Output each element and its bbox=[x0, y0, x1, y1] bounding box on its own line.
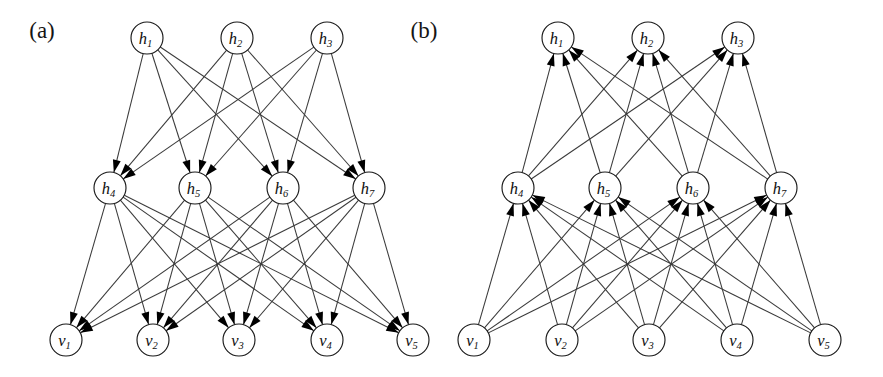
node-subscript-h6: 6 bbox=[693, 188, 699, 199]
edge-h7-to-v3 bbox=[249, 200, 358, 328]
node-subscript-v2: 2 bbox=[153, 340, 159, 351]
edge-v2-to-h4 bbox=[522, 203, 557, 324]
node-panel-a-v4[interactable]: v4 bbox=[311, 324, 343, 356]
edge-h3-to-h4 bbox=[123, 47, 314, 179]
edge-v5-to-h7 bbox=[785, 203, 820, 324]
edge-h2-to-h4 bbox=[120, 50, 226, 176]
edge-h7-to-h3 bbox=[742, 53, 776, 172]
node-panel-b-h7[interactable]: h7 bbox=[765, 172, 797, 204]
arrowhead-v5-to-h7 bbox=[785, 203, 793, 216]
node-subscript-h2: 2 bbox=[237, 38, 243, 49]
node-panel-b-v4[interactable]: v4 bbox=[721, 324, 753, 356]
edge-h7-to-v1 bbox=[80, 195, 354, 333]
node-panel-a-v3[interactable]: v3 bbox=[223, 324, 255, 356]
node-panel-b-v1[interactable]: v1 bbox=[458, 324, 490, 356]
node-panel-b-h2[interactable]: h2 bbox=[632, 22, 664, 54]
node-panel-a-h4[interactable]: h4 bbox=[94, 172, 126, 204]
arrowhead-v1-to-h4 bbox=[506, 203, 514, 216]
node-subscript-h6: 6 bbox=[283, 188, 289, 199]
node-subscript-v3: 3 bbox=[238, 340, 244, 351]
arrowhead-h5-to-h2 bbox=[636, 53, 644, 66]
arrowhead-h7-to-v4 bbox=[331, 311, 339, 324]
node-subscript-v5: 5 bbox=[413, 340, 418, 351]
edge-h3-to-h6 bbox=[288, 53, 323, 172]
arrowhead-h5-to-v3 bbox=[227, 312, 235, 325]
arrowhead-h2-to-h6 bbox=[271, 160, 279, 173]
edge-v4-to-h4 bbox=[531, 197, 724, 331]
network-diagram-svg: h1h2h3h4h5h6h7v1v2v3v4v5h1h2h3h4h5h6h7v1… bbox=[0, 0, 883, 377]
edge-h6-to-h1 bbox=[569, 50, 683, 176]
node-panel-a-h7[interactable]: h7 bbox=[353, 172, 385, 204]
edge-v5-to-h5 bbox=[618, 197, 812, 331]
node-subscript-h3: 3 bbox=[326, 38, 332, 49]
arrowhead-h5-to-v2 bbox=[157, 311, 165, 324]
figure-canvas: h1h2h3h4h5h6h7v1v2v3v4v5h1h2h3h4h5h6h7v1… bbox=[0, 0, 883, 377]
node-subscript-v1: 1 bbox=[66, 340, 71, 351]
node-panel-a-h3[interactable]: h3 bbox=[311, 22, 343, 54]
node-panel-b-h5[interactable]: h5 bbox=[589, 172, 621, 204]
edge-h3-to-h7 bbox=[331, 53, 364, 172]
node-panel-b-v2[interactable]: v2 bbox=[546, 324, 578, 356]
nodes-layer: h1h2h3h4h5h6h7v1v2v3v4v5h1h2h3h4h5h6h7v1… bbox=[50, 22, 841, 356]
node-subscript-h4: 4 bbox=[110, 188, 116, 199]
arrowhead-h6-to-v3 bbox=[243, 312, 251, 325]
node-panel-b-h6[interactable]: h6 bbox=[677, 172, 709, 204]
arrowhead-h3-to-h6 bbox=[287, 160, 295, 173]
node-panel-a-h6[interactable]: h6 bbox=[267, 172, 299, 204]
arrowhead-h5-to-h1 bbox=[563, 53, 571, 66]
node-subscript-v2: 2 bbox=[562, 340, 568, 351]
node-panel-b-v3[interactable]: v3 bbox=[633, 324, 665, 356]
arrowhead-v2-to-h4 bbox=[522, 203, 530, 216]
arrowhead-v3-to-h5 bbox=[609, 203, 617, 216]
edge-v3-to-h4 bbox=[528, 200, 638, 328]
arrowhead-v4-to-h6 bbox=[697, 203, 705, 216]
edge-h5-to-h2 bbox=[609, 53, 643, 172]
node-subscript-v5: 5 bbox=[825, 340, 830, 351]
edge-h5-to-v1 bbox=[76, 200, 184, 328]
edge-h4-to-v1 bbox=[70, 203, 105, 324]
edge-h6-to-v1 bbox=[79, 197, 270, 331]
node-panel-b-v5[interactable]: v5 bbox=[809, 324, 841, 356]
edge-h6-to-h3 bbox=[698, 53, 734, 172]
node-panel-b-h1[interactable]: h1 bbox=[542, 22, 574, 54]
arrowhead-h6-to-v4 bbox=[315, 312, 323, 325]
edge-h5-to-h3 bbox=[616, 50, 728, 176]
node-subscript-h7: 7 bbox=[369, 188, 375, 199]
node-subscript-h4: 4 bbox=[518, 188, 524, 199]
edge-h2-to-h6 bbox=[242, 53, 279, 172]
arrowhead-h4-to-v2 bbox=[141, 311, 149, 324]
edge-h1-to-h6 bbox=[158, 50, 273, 176]
edge-h6-to-h2 bbox=[653, 53, 689, 172]
node-panel-a-h5[interactable]: h5 bbox=[179, 172, 211, 204]
edge-h3-to-h5 bbox=[206, 50, 317, 176]
node-panel-a-v1[interactable]: v1 bbox=[50, 324, 82, 356]
node-panel-b-h3[interactable]: h3 bbox=[722, 22, 754, 54]
edge-h7-to-h1 bbox=[571, 47, 767, 179]
node-subscript-h7: 7 bbox=[781, 188, 787, 199]
node-subscript-v3: 3 bbox=[648, 340, 654, 351]
node-panel-a-v2[interactable]: v2 bbox=[137, 324, 169, 356]
edge-h6-to-v4 bbox=[287, 203, 322, 324]
arrowhead-h7-to-v5 bbox=[401, 312, 409, 325]
edge-h4-to-h1 bbox=[522, 53, 554, 172]
node-subscript-h5: 5 bbox=[195, 188, 200, 199]
node-subscript-h1: 1 bbox=[147, 38, 152, 49]
arrowhead-h1-to-h5 bbox=[183, 160, 191, 173]
node-panel-a-h1[interactable]: h1 bbox=[131, 22, 163, 54]
panel-label-panel-a: (a) bbox=[29, 18, 55, 43]
edge-h4-to-h2 bbox=[528, 50, 637, 176]
node-subscript-h5: 5 bbox=[605, 188, 610, 199]
node-subscript-h3: 3 bbox=[737, 38, 743, 49]
node-subscript-h2: 2 bbox=[648, 38, 654, 49]
arrowhead-v2-to-h5 bbox=[593, 203, 601, 216]
node-panel-a-h2[interactable]: h2 bbox=[221, 22, 253, 54]
edge-v5-to-h6 bbox=[703, 200, 814, 328]
node-panel-a-v5[interactable]: v5 bbox=[397, 324, 429, 356]
node-panel-b-h4[interactable]: h4 bbox=[502, 172, 534, 204]
edge-h2-to-h7 bbox=[248, 50, 359, 176]
arrowhead-h7-to-h3 bbox=[742, 53, 750, 66]
edge-h7-to-v2 bbox=[166, 197, 356, 331]
arrowhead-h2-to-h5 bbox=[199, 159, 207, 172]
node-subscript-v4: 4 bbox=[737, 340, 743, 351]
edge-h4-to-v2 bbox=[114, 203, 148, 324]
